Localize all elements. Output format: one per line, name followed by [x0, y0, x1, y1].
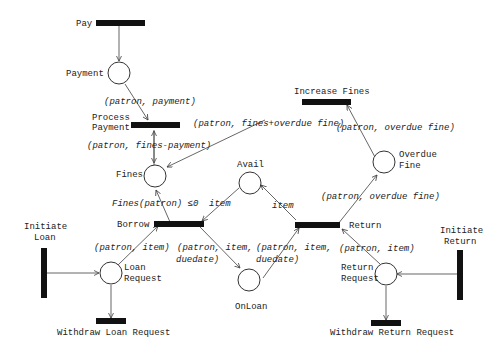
transition-return — [295, 222, 340, 228]
arc-label-patron-payment: (patron, payment) — [104, 97, 196, 107]
label-process-payment-2: Payment — [92, 123, 130, 133]
label-loan-request-2: Request — [124, 274, 162, 284]
label-return-request-2: Request — [341, 274, 379, 284]
label-borrow: Borrow — [117, 220, 150, 230]
transition-pay — [96, 20, 145, 26]
arc-label-guard: Fines(patron) ≤0 — [112, 199, 199, 209]
transition-initiate-return — [457, 250, 463, 300]
place-overdue-fine — [373, 151, 395, 173]
transition-initiate-loan — [41, 248, 47, 298]
label-initiate-return-1: Initiate — [440, 226, 483, 236]
arc-label-overdue-top: (patron, overdue fine) — [336, 123, 455, 133]
label-payment: Payment — [66, 69, 104, 79]
arc-label-return-patron-item: (patron, item) — [339, 244, 415, 254]
label-increase-fines: Increase Fines — [294, 87, 370, 97]
place-loan-request — [100, 262, 122, 284]
petri-net-diagram: Pay Process Payment Increase Fines Borro… — [0, 0, 498, 353]
place-avail — [239, 172, 261, 194]
label-overdue-fine-1: Overdue — [399, 150, 437, 160]
place-onloan — [238, 269, 260, 291]
label-process-payment-1: Process — [92, 113, 130, 123]
transition-increase-fines — [302, 99, 351, 105]
label-loan-request-1: Loan — [124, 263, 146, 273]
label-overdue-fine-2: Fine — [399, 161, 421, 171]
transition-withdraw-return — [371, 320, 401, 326]
arc-label-return-in-1: (patron, item, — [256, 243, 332, 253]
label-pay: Pay — [76, 19, 93, 29]
arc-label-overdue-mid: (patron, overdue fine) — [321, 192, 440, 202]
label-return: Return — [349, 221, 381, 231]
transition-process-payment — [131, 122, 180, 128]
place-fines — [144, 165, 166, 187]
label-avail: Avail — [237, 160, 264, 170]
transition-withdraw-loan — [96, 318, 126, 324]
label-fines: Fines — [116, 170, 143, 180]
arc-onloan-return — [263, 228, 299, 278]
label-return-request-1: Return — [341, 263, 373, 273]
arc-label-item-right: item — [272, 201, 294, 211]
arc-label-borrow-out-1: (patron, item, — [177, 243, 253, 253]
arc-label-fines-payment: (patron, fines-payment) — [87, 141, 211, 151]
transition-borrow — [154, 221, 204, 227]
arc-label-fines-overdue: (patron, fines+overdue fine) — [193, 119, 344, 129]
label-withdraw-loan: Withdraw Loan Request — [57, 328, 170, 338]
arc-label-borrow-patron-item: (patron, item) — [94, 243, 170, 253]
label-initiate-loan-2: Loan — [34, 233, 56, 243]
label-withdraw-return: Withdraw Return Request — [330, 328, 454, 338]
arc-label-return-in-2: duedate) — [256, 255, 299, 265]
arc-label-borrow-out-2: duedate) — [176, 255, 219, 265]
label-initiate-loan-1: Initiate — [24, 222, 67, 232]
arc-label-item-left: item — [209, 199, 231, 209]
place-payment — [108, 62, 130, 84]
label-initiate-return-2: Return — [444, 237, 476, 247]
label-onloan: OnLoan — [235, 302, 267, 312]
